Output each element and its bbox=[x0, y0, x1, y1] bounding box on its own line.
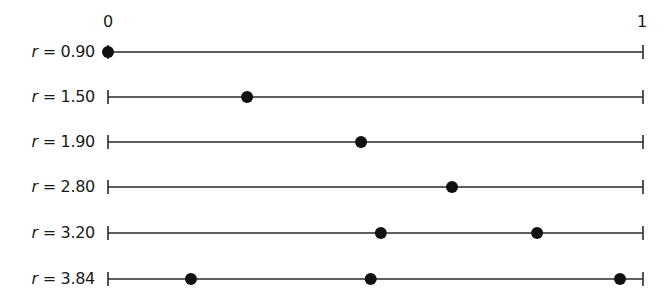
data-point bbox=[375, 227, 387, 239]
number-line-row bbox=[102, 45, 643, 59]
data-point bbox=[355, 136, 367, 148]
data-point bbox=[446, 181, 458, 193]
data-point bbox=[102, 46, 114, 58]
number-line-row bbox=[108, 135, 643, 149]
number-line-row bbox=[108, 226, 643, 240]
plot-area bbox=[0, 0, 669, 303]
data-point bbox=[531, 227, 543, 239]
data-point bbox=[365, 273, 377, 285]
data-point bbox=[185, 273, 197, 285]
chart: 0 1 r = 0.90 r = 1.50 r = 1.90 r = 2.80 … bbox=[0, 0, 669, 303]
number-line-row bbox=[108, 180, 643, 194]
data-point bbox=[241, 91, 253, 103]
number-line-row bbox=[108, 272, 643, 286]
data-point bbox=[614, 273, 626, 285]
number-line-row bbox=[108, 90, 643, 104]
